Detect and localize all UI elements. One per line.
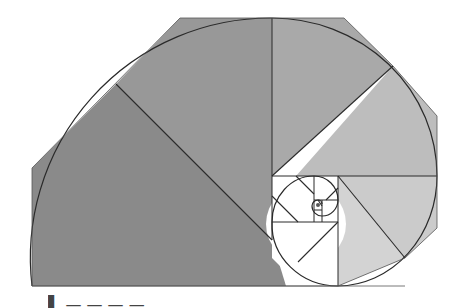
- figure-caption: ▌ — — — —: [48, 294, 428, 308]
- square-5: [338, 176, 437, 286]
- spiral-center: [316, 203, 320, 207]
